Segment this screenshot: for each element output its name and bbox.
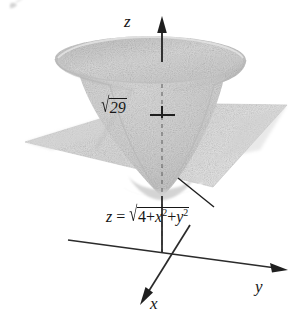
- equation-equals: =: [116, 208, 125, 225]
- surface-equation-label: z = √4+x2+y2: [106, 207, 189, 226]
- radicand-plus-2: +: [167, 208, 176, 225]
- scan-artifact: [10, 0, 22, 8]
- radical-sign-icon: √: [101, 93, 109, 117]
- z-axis-label: z: [124, 12, 131, 32]
- radicand-plus-1: +: [146, 208, 155, 225]
- radicand-y-exponent: 2: [183, 207, 188, 218]
- x-axis-label: x: [150, 294, 158, 314]
- equation-lhs: z: [106, 208, 112, 225]
- radical-sign-icon: √: [130, 202, 138, 226]
- plane-height-value: 29: [109, 98, 127, 117]
- radicand-constant: 4: [138, 208, 146, 225]
- plane-height-label: √29: [101, 98, 127, 117]
- y-axis-label: y: [255, 277, 263, 297]
- equation-radicand: 4+x2+y2: [137, 207, 189, 226]
- surface-figure: [0, 0, 297, 324]
- x-axis: [140, 225, 190, 305]
